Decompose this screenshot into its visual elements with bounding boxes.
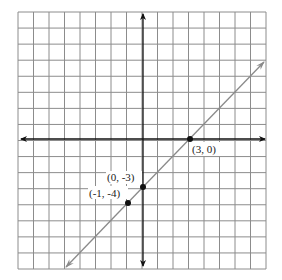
label-neg1-neg4: (-1, -4) bbox=[89, 187, 120, 200]
label-0-neg3: (0, -3) bbox=[107, 171, 135, 184]
coordinate-plane: (3, 0) (0, -3) (-1, -4) bbox=[0, 0, 282, 280]
point-neg1-neg4 bbox=[125, 200, 131, 206]
point-3-0 bbox=[187, 136, 193, 142]
point-0-neg3 bbox=[140, 184, 146, 190]
grid bbox=[18, 12, 266, 269]
label-3-0: (3, 0) bbox=[192, 143, 216, 156]
